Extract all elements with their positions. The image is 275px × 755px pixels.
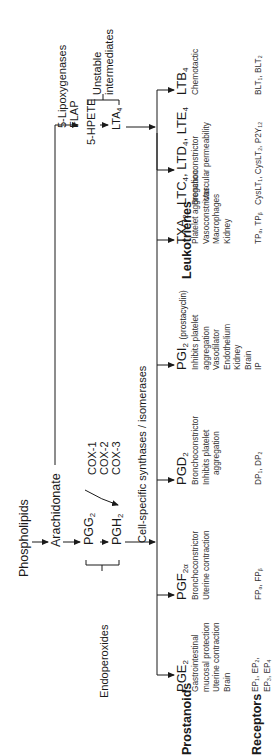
receptors-blt: BLT1, BLT2 xyxy=(253,55,265,95)
flap-label: FLAP xyxy=(68,45,80,128)
effect: Macrophages xyxy=(211,170,222,244)
effect: Vasodilator xyxy=(211,290,222,370)
cox-3-label: COX-3 xyxy=(110,441,122,475)
prostanoid-pge2: PGE2 Gastrointestinal mucosal protection… xyxy=(175,622,232,692)
phospholipids-label: Phospholipids xyxy=(18,499,31,577)
effect: Kidney xyxy=(232,290,243,370)
leukotriene-name: LTC4, LTD4, LTE4 xyxy=(175,107,190,205)
lta4-label: LTA4 xyxy=(111,108,124,130)
synthases-label: Cell-specific synthases / isomerases xyxy=(137,366,148,543)
intermediates-text: intermediates xyxy=(103,29,115,95)
effect: ↑Vascular permeability xyxy=(201,107,212,205)
prostanoid-name: PGE2 xyxy=(175,622,190,692)
effect: Bronchoconstrictor xyxy=(190,107,201,205)
eicosanoid-pathway-diagram: Phospholipids Arachidonate PGG2 PGH2 End… xyxy=(0,0,275,755)
receptors-pgf2a: FPα, FPβ xyxy=(253,568,265,600)
effect: Gastrointestinal xyxy=(190,622,201,692)
effect: Inhibits platelet xyxy=(190,290,201,370)
effect: Brain xyxy=(222,622,233,692)
receptors-pgi2: IP xyxy=(253,362,263,370)
effect: Endothelium xyxy=(222,290,233,370)
effect: aggregation xyxy=(201,290,212,370)
effect: Brain xyxy=(243,290,254,370)
lipoxygenase-enzymes: 5-Lipoxygenases FLAP xyxy=(56,45,80,128)
5-hpete-label: 5-HPETE xyxy=(86,99,97,145)
leukotriene-ltc4-ltd4-lte4: LTC4, LTD4, LTE4 Bronchoconstrictor ↑Vas… xyxy=(175,107,211,205)
pgg2-label: PGG2 xyxy=(83,513,97,545)
prostanoid-pgf2a: PGF2α Bronchoconstrictor Uterine contrac… xyxy=(175,530,211,600)
effect: Kidney xyxy=(222,170,233,244)
effect: Inhibits platelet xyxy=(201,416,212,485)
leukotriene-name: LTB4 xyxy=(175,49,190,95)
prostanoid-name: PGI2 (prostacyclin) xyxy=(175,290,190,370)
5-lipoxygenases-label: 5-Lipoxygenases xyxy=(56,45,68,128)
effect: Uterine contraction xyxy=(201,530,212,600)
prostanoid-name: PGF2α xyxy=(175,530,190,600)
effect: aggregation xyxy=(211,416,222,485)
prostanoid-name: PGD2 xyxy=(175,416,190,485)
receptors-cyslt: CysLT1, CysLT2, P2Y12 xyxy=(253,122,265,205)
cox-1-label: COX-1 xyxy=(86,441,98,475)
leukotriene-ltb4: LTB4 Chemotactic xyxy=(175,49,201,95)
unstable-text: Unstable xyxy=(91,29,103,95)
unstable-intermediates-label: Unstable intermediates xyxy=(91,29,115,95)
receptors-pge2: EP1, EP2,EP3, EP4 xyxy=(250,657,275,692)
effect: Bronchoconstrictor xyxy=(190,530,201,600)
effect: Bronchoconstrictor xyxy=(190,416,201,485)
arachidonate-label: Arachidonate xyxy=(50,473,63,547)
pgh2-label: PGH2 xyxy=(111,514,125,545)
receptors-txa2: TPα, TPβ xyxy=(253,212,265,244)
effect: Chemotactic xyxy=(190,49,201,95)
receptors-pgd2: DP1, DP2 xyxy=(253,452,265,485)
receptors-row-label: Receptors xyxy=(251,694,264,755)
effect: Uterine contraction xyxy=(211,622,222,692)
cox-enzymes: COX-1 COX-2 COX-3 xyxy=(86,441,122,475)
prostanoids-row-label: Prostanoids xyxy=(181,683,194,755)
effect: mucosal protection xyxy=(201,622,212,692)
prostanoid-pgd2: PGD2 Bronchoconstrictor Inhibits platele… xyxy=(175,416,222,485)
prostanoid-pgi2: PGI2 (prostacyclin) Inhibits platelet ag… xyxy=(175,290,253,370)
cox-2-label: COX-2 xyxy=(98,441,110,475)
endoperoxides-label: Endoperoxides xyxy=(99,625,110,698)
